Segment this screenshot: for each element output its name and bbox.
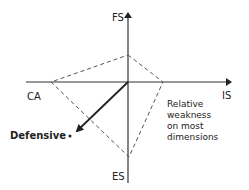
space-matrix-diagram: FS CA IS ES Defensive Relative weakness … xyxy=(0,0,249,190)
annotation-line-1: Relative xyxy=(167,99,204,109)
axis-label-is: IS xyxy=(222,90,231,101)
defensive-point-dot xyxy=(69,135,72,138)
axis-label-es: ES xyxy=(112,171,125,182)
fs-arrow-icon xyxy=(124,12,132,18)
annotation-line-2: weakness xyxy=(167,110,212,120)
defensive-label: Defensive xyxy=(10,130,66,141)
is-arrow-icon xyxy=(226,78,232,86)
axis-label-ca: CA xyxy=(27,91,41,102)
annotation-line-3: on most xyxy=(167,121,204,131)
defensive-vector-arrow xyxy=(77,82,128,131)
dashed-position-polygon xyxy=(51,55,163,157)
axis-label-fs: FS xyxy=(112,12,124,23)
annotation-line-4: dimensions xyxy=(167,132,219,142)
